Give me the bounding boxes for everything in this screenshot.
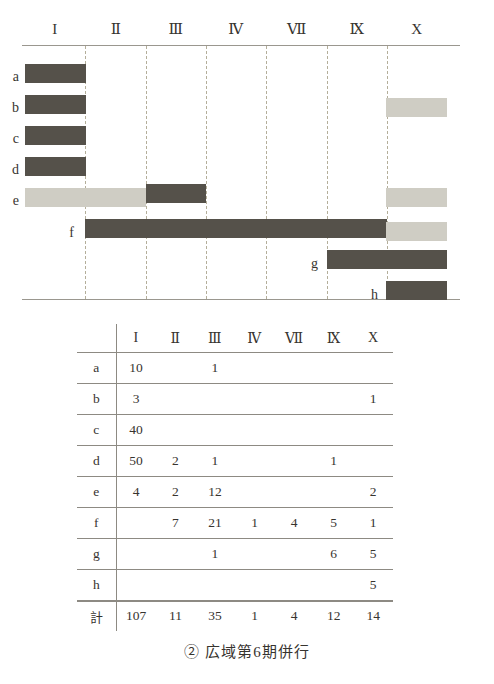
table-col-header-1: I (116, 324, 156, 353)
cell-a-2 (156, 353, 196, 384)
cell-e-7: 2 (353, 477, 393, 508)
chart-row-label-g: g (288, 257, 318, 271)
chart-bar-b-2 (386, 98, 447, 117)
cell-h-1 (116, 570, 156, 601)
figure-caption: ② 広域第6期併行 (0, 640, 494, 661)
table-total-row: 計 107 11 35 1 4 12 14 (77, 601, 393, 632)
cell-g-1 (116, 539, 156, 570)
table-col-header-7: X (353, 324, 393, 353)
cell-h-6 (314, 570, 354, 601)
table-col-header-6: Ⅸ (314, 324, 354, 353)
cell-c-3 (195, 415, 235, 446)
cell-f-4: 1 (235, 508, 275, 539)
cell-f-5: 4 (274, 508, 314, 539)
table-header-row: I Ⅱ Ⅲ Ⅳ Ⅶ Ⅸ X (77, 324, 393, 353)
gridline-2 (146, 46, 147, 299)
chart-column-header-6: Ⅸ (327, 22, 387, 37)
table-row-label-h: h (77, 570, 116, 601)
cell-g-6: 6 (314, 539, 354, 570)
chart-column-header-5: Ⅶ (267, 22, 327, 37)
chart-bar-g-1 (327, 250, 447, 269)
table-row: c 40 (77, 415, 393, 446)
gridline-4 (266, 46, 267, 299)
cell-f-2: 7 (156, 508, 196, 539)
cell-d-4 (235, 446, 275, 477)
cell-total-1: 107 (116, 601, 156, 632)
table-row: g 1 6 5 (77, 539, 393, 570)
cell-g-5 (274, 539, 314, 570)
cell-b-1: 3 (116, 384, 156, 415)
chart-bar-b-1 (25, 95, 86, 114)
table-row: f 7 21 1 4 5 1 (77, 508, 393, 539)
table-row-label-total: 計 (77, 601, 116, 632)
chart-bar-e-3 (386, 188, 447, 207)
table-row: e 4 2 12 2 (77, 477, 393, 508)
cell-total-2: 11 (156, 601, 196, 632)
cell-e-4 (235, 477, 275, 508)
cell-total-4: 1 (235, 601, 275, 632)
cell-f-7: 1 (353, 508, 393, 539)
cell-f-6: 5 (314, 508, 354, 539)
table-row-label-f: f (77, 508, 116, 539)
chart-column-header-3: Ⅲ (146, 22, 206, 37)
chart-bar-e-2 (146, 184, 206, 203)
cell-e-3: 12 (195, 477, 235, 508)
table-col-header-4: Ⅳ (235, 324, 275, 353)
cell-d-5 (274, 446, 314, 477)
cell-b-7: 1 (353, 384, 393, 415)
table-col-header-5: Ⅶ (274, 324, 314, 353)
cell-b-6 (314, 384, 354, 415)
chart-column-header-7: X (387, 22, 447, 37)
chart-bar-c-1 (25, 126, 86, 145)
cell-h-5 (274, 570, 314, 601)
chart-row-label-c: c (0, 132, 19, 146)
gridline-3 (206, 46, 207, 299)
chart-bar-e-1 (25, 188, 146, 207)
cell-a-3: 1 (195, 353, 235, 384)
table-corner-cell (77, 324, 116, 353)
table-row: d 50 2 1 1 (77, 446, 393, 477)
cell-total-5: 4 (274, 601, 314, 632)
cell-a-7 (353, 353, 393, 384)
data-table: I Ⅱ Ⅲ Ⅳ Ⅶ Ⅸ X a 10 1 (77, 324, 393, 631)
cell-e-6 (314, 477, 354, 508)
chart-row-label-e: e (0, 194, 19, 208)
cell-h-4 (235, 570, 275, 601)
cell-total-7: 14 (353, 601, 393, 632)
table-row: b 3 1 (77, 384, 393, 415)
cell-d-2: 2 (156, 446, 196, 477)
chart-bar-f-2 (386, 222, 447, 241)
cell-f-1 (116, 508, 156, 539)
range-chart: I Ⅱ Ⅲ Ⅳ Ⅶ Ⅸ X a b c d e f (0, 0, 494, 310)
cell-d-1: 50 (116, 446, 156, 477)
table-row-label-a: a (77, 353, 116, 384)
chart-column-header-4: Ⅳ (206, 22, 266, 37)
cell-d-3: 1 (195, 446, 235, 477)
cell-b-4 (235, 384, 275, 415)
cell-c-6 (314, 415, 354, 446)
data-table-wrap: I Ⅱ Ⅲ Ⅳ Ⅶ Ⅸ X a 10 1 (0, 324, 494, 634)
table-row-label-g: g (77, 539, 116, 570)
cell-d-6: 1 (314, 446, 354, 477)
cell-c-1: 40 (116, 415, 156, 446)
chart-bar-a-1 (25, 64, 86, 83)
table-row-label-c: c (77, 415, 116, 446)
cell-c-5 (274, 415, 314, 446)
cell-g-4 (235, 539, 275, 570)
cell-g-7: 5 (353, 539, 393, 570)
chart-row-label-h: h (348, 288, 378, 302)
chart-row-label-a: a (0, 70, 19, 84)
cell-h-2 (156, 570, 196, 601)
chart-row-label-f: f (44, 226, 74, 240)
cell-a-6 (314, 353, 354, 384)
chart-bar-h-1 (386, 281, 447, 300)
cell-total-6: 12 (314, 601, 354, 632)
cell-b-2 (156, 384, 196, 415)
cell-b-5 (274, 384, 314, 415)
table-row-label-e: e (77, 477, 116, 508)
cell-a-1: 10 (116, 353, 156, 384)
cell-f-3: 21 (195, 508, 235, 539)
figure-panel: I Ⅱ Ⅲ Ⅳ Ⅶ Ⅸ X a b c d e f (0, 0, 494, 684)
table-row-label-b: b (77, 384, 116, 415)
cell-g-2 (156, 539, 196, 570)
